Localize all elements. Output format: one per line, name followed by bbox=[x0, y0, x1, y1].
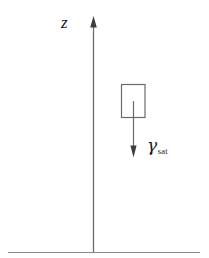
soil-element-diagram: z γsat bbox=[0, 0, 209, 258]
z-axis-label: z bbox=[61, 14, 68, 31]
gamma-symbol: γ bbox=[147, 135, 157, 155]
diagram-canvas bbox=[0, 0, 209, 258]
z-axis-arrowhead-icon bbox=[90, 16, 97, 28]
gamma-subscript: sat bbox=[158, 146, 168, 156]
unit-weight-arrowhead-icon bbox=[130, 146, 136, 158]
unit-weight-label: γsat bbox=[147, 137, 167, 154]
